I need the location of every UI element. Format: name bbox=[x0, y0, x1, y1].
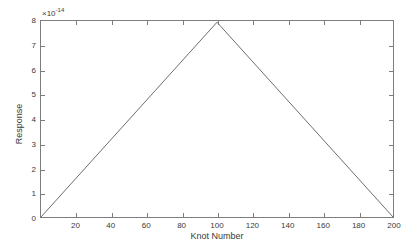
x-tick-mark bbox=[112, 213, 113, 217]
y-tick-mark bbox=[41, 46, 45, 47]
y-tick-mark bbox=[41, 145, 45, 146]
x-tick-mark bbox=[289, 213, 290, 217]
x-tick-mark bbox=[253, 213, 254, 217]
x-tick-mark-top bbox=[183, 21, 184, 25]
x-tick-mark-top bbox=[147, 21, 148, 25]
response-line-series bbox=[41, 22, 393, 217]
y-tick-label: 3 bbox=[32, 139, 36, 148]
x-tick-mark-top bbox=[289, 21, 290, 25]
x-tick-label: 140 bbox=[281, 221, 294, 230]
y-tick-mark-right bbox=[389, 71, 393, 72]
y-axis-exponent-power: -14 bbox=[56, 7, 65, 13]
x-tick-label: 80 bbox=[177, 221, 186, 230]
x-tick-mark bbox=[147, 213, 148, 217]
x-axis-title: Knot Number bbox=[40, 231, 394, 241]
y-tick-mark bbox=[41, 194, 45, 195]
x-tick-label: 160 bbox=[317, 221, 330, 230]
x-tick-mark-top bbox=[76, 21, 77, 25]
y-tick-mark-right bbox=[389, 145, 393, 146]
y-tick-mark bbox=[41, 120, 45, 121]
y-tick-mark bbox=[41, 95, 45, 96]
y-tick-mark-right bbox=[389, 120, 393, 121]
y-tick-mark-right bbox=[389, 170, 393, 171]
y-tick-mark-right bbox=[389, 194, 393, 195]
y-tick-mark bbox=[41, 71, 45, 72]
y-tick-mark bbox=[41, 170, 45, 171]
y-tick-label: 6 bbox=[32, 65, 36, 74]
x-tick-label: 180 bbox=[352, 221, 365, 230]
y-tick-label: 0 bbox=[32, 214, 36, 223]
figure-canvas: ×10-14 Response Knot Number 012345678 20… bbox=[0, 0, 416, 246]
x-tick-mark bbox=[360, 213, 361, 217]
y-axis-exponent-base: ×10 bbox=[42, 9, 56, 18]
plot-area bbox=[40, 20, 394, 218]
y-tick-label: 8 bbox=[32, 16, 36, 25]
y-axis-title: Response bbox=[14, 74, 24, 174]
x-tick-label: 120 bbox=[246, 221, 259, 230]
x-tick-mark-top bbox=[112, 21, 113, 25]
y-tick-mark-right bbox=[389, 95, 393, 96]
y-tick-label: 5 bbox=[32, 90, 36, 99]
y-axis-exponent-label: ×10-14 bbox=[42, 7, 64, 18]
x-tick-mark bbox=[76, 213, 77, 217]
y-tick-label: 2 bbox=[32, 164, 36, 173]
x-tick-label: 20 bbox=[71, 221, 80, 230]
x-tick-mark-top bbox=[218, 21, 219, 25]
x-tick-label: 40 bbox=[106, 221, 115, 230]
data-line-svg bbox=[41, 21, 393, 217]
y-tick-label: 1 bbox=[32, 189, 36, 198]
x-tick-mark-top bbox=[324, 21, 325, 25]
x-tick-mark bbox=[218, 213, 219, 217]
x-tick-mark-top bbox=[360, 21, 361, 25]
x-tick-label: 100 bbox=[210, 221, 223, 230]
x-tick-mark bbox=[183, 213, 184, 217]
x-tick-label: 200 bbox=[387, 221, 400, 230]
y-tick-label: 7 bbox=[32, 40, 36, 49]
x-tick-mark-top bbox=[253, 21, 254, 25]
y-tick-label: 4 bbox=[32, 115, 36, 124]
x-tick-mark bbox=[324, 213, 325, 217]
x-tick-label: 60 bbox=[142, 221, 151, 230]
y-tick-mark-right bbox=[389, 46, 393, 47]
